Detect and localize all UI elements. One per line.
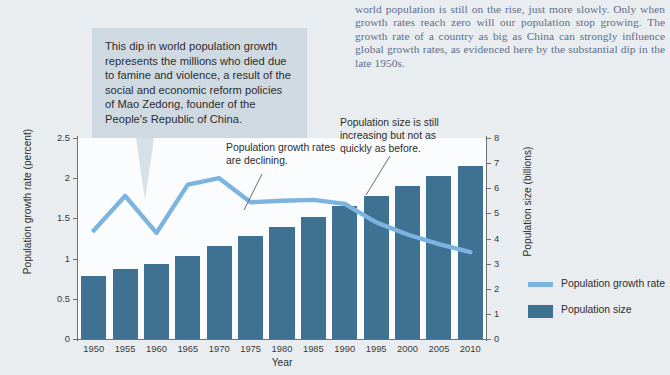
callout: This dip in world population growth repr… xyxy=(92,28,307,200)
legend-item-growth-rate: Population growth rate xyxy=(528,278,668,291)
left-tick-label: 0.5 xyxy=(40,293,70,304)
x-axis-line xyxy=(77,339,488,340)
callout-pointer-icon xyxy=(136,138,154,200)
legend-label-growth-rate: Population growth rate xyxy=(561,278,665,291)
callout-text: This dip in world population growth repr… xyxy=(92,28,307,138)
legend-label-population-size: Population size xyxy=(561,304,631,317)
left-tick xyxy=(73,339,77,340)
right-tick xyxy=(487,289,491,290)
x-axis-title: Year xyxy=(78,357,486,368)
x-tick-label: 2010 xyxy=(450,343,490,354)
bar-swatch-icon xyxy=(528,305,553,318)
chart-legend: Population growth rate Population size xyxy=(528,278,668,331)
right-tick-label: 1 xyxy=(494,308,514,319)
right-tick-label: 2 xyxy=(494,283,514,294)
legend-item-population-size: Population size xyxy=(528,304,668,318)
right-tick xyxy=(487,314,491,315)
annotation-size-increasing: Population size is still increasing but … xyxy=(340,116,465,155)
right-tick xyxy=(487,339,491,340)
left-tick xyxy=(73,299,77,300)
right-tick-label: 0 xyxy=(494,333,514,344)
line-swatch-icon xyxy=(528,282,553,287)
left-tick-label: 0 xyxy=(40,333,70,344)
